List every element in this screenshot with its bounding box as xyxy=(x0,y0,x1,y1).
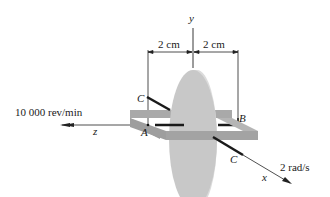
gyroscope-diagram: y 2 cm 2 cm C 10 000 rev/min z A B C 2 r… xyxy=(0,0,330,197)
point-c-top-label: C xyxy=(137,93,144,104)
point-c-bottom-label: C xyxy=(230,154,237,165)
dimension-right-label: 2 cm xyxy=(203,39,225,50)
precession-rate-label: 2 rad/s xyxy=(280,162,310,173)
shaft-upper xyxy=(147,97,170,110)
point-b-label: B xyxy=(239,113,246,124)
x-axis-label: x xyxy=(262,172,267,183)
z-axis-label: z xyxy=(93,126,97,137)
dimension-left-label: 2 cm xyxy=(158,39,180,50)
spin-rate-label: 10 000 rev/min xyxy=(15,107,82,118)
x-axis-arrow-icon xyxy=(282,177,292,184)
y-axis-label: y xyxy=(189,13,194,24)
point-a-label: A xyxy=(141,127,148,138)
